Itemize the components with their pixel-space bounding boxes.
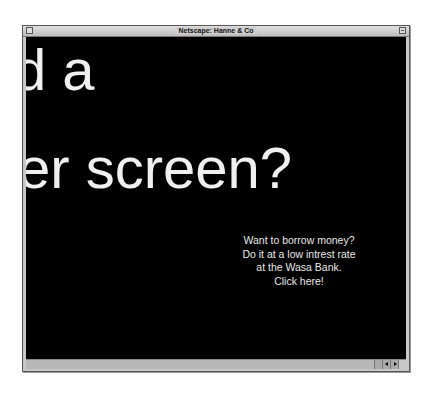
- offscreen-text-ghost: [0, 40, 22, 160]
- promo-click-here[interactable]: Click here!: [239, 275, 359, 289]
- page-content: d a er screen? Want to borrow money? Do …: [26, 37, 406, 359]
- promo-line: Do it at a low intrest rate: [239, 248, 359, 262]
- scroll-controls: [374, 360, 406, 369]
- promo-line: Want to borrow money?: [239, 234, 359, 248]
- promo-line: at the Wasa Bank.: [239, 261, 359, 275]
- zoom-box-icon[interactable]: [399, 27, 406, 34]
- window-title-text: Netscape: Hanne & Co: [175, 27, 256, 34]
- window-title: Netscape: Hanne & Co: [23, 26, 409, 36]
- grow-box-icon[interactable]: [398, 360, 406, 369]
- scroll-track: [374, 360, 382, 369]
- title-bar[interactable]: Netscape: Hanne & Co: [23, 26, 409, 37]
- wasa-bank-promo-link[interactable]: Want to borrow money? Do it at a low int…: [239, 234, 359, 288]
- arrow-right-icon[interactable]: [390, 360, 398, 369]
- arrow-left-icon[interactable]: [382, 360, 390, 369]
- headline-line-2: er screen?: [26, 133, 292, 203]
- headline-line-1: d a: [26, 37, 95, 105]
- browser-window: Netscape: Hanne & Co d a er screen? Want…: [22, 25, 410, 372]
- status-bar: [26, 359, 406, 369]
